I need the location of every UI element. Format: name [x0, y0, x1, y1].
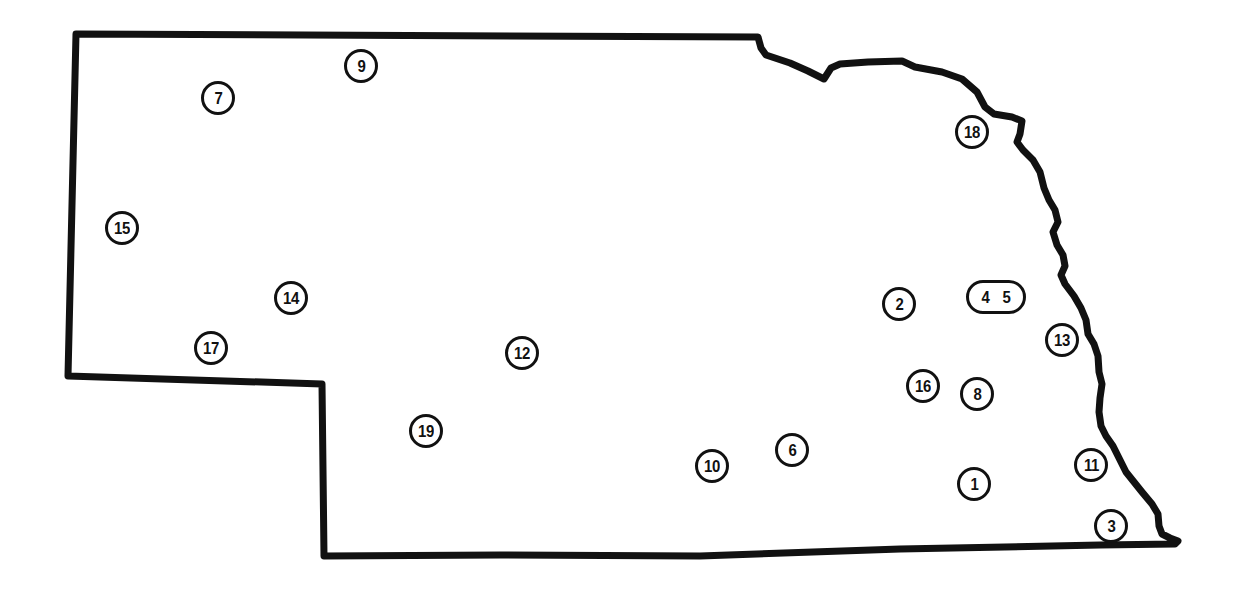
site-marker-label: 15 [114, 220, 130, 237]
site-marker-1[interactable]: 1 [957, 467, 991, 501]
site-marker-4-5[interactable]: 4 5 [966, 280, 1026, 314]
site-marker-label: 16 [915, 378, 931, 395]
site-marker-label: 11 [1084, 457, 1099, 474]
site-marker-14[interactable]: 14 [274, 281, 308, 315]
site-marker-19[interactable]: 19 [409, 414, 443, 448]
site-marker-7[interactable]: 7 [201, 81, 235, 115]
site-marker-10[interactable]: 10 [695, 449, 729, 483]
site-marker-label: 9 [357, 58, 365, 75]
site-marker-label: 6 [788, 442, 796, 459]
nebraska-map [0, 0, 1241, 595]
site-marker-16[interactable]: 16 [906, 369, 940, 403]
site-marker-label: 10 [704, 458, 720, 475]
site-marker-11[interactable]: 11 [1074, 448, 1108, 482]
site-marker-label: 19 [418, 423, 434, 440]
site-marker-6[interactable]: 6 [775, 433, 809, 467]
site-marker-label: 17 [203, 340, 219, 357]
site-marker-8[interactable]: 8 [960, 377, 994, 411]
site-marker-label: 18 [964, 124, 980, 141]
site-marker-13[interactable]: 13 [1045, 323, 1079, 357]
site-marker-18[interactable]: 18 [955, 115, 989, 149]
site-marker-label: 3 [1107, 518, 1115, 535]
site-marker-17[interactable]: 17 [194, 331, 228, 365]
site-marker-label: 14 [283, 290, 299, 307]
site-marker-label: 13 [1054, 332, 1070, 349]
site-marker-label: 8 [973, 386, 981, 403]
site-marker-9[interactable]: 9 [344, 49, 378, 83]
site-marker-2[interactable]: 2 [882, 287, 916, 321]
site-marker-12[interactable]: 12 [505, 336, 539, 370]
site-marker-label: 2 [895, 296, 903, 313]
site-marker-label-5[interactable]: 5 [1003, 289, 1011, 306]
site-marker-label: 1 [970, 476, 978, 493]
site-marker-label-4[interactable]: 4 [982, 289, 990, 306]
site-marker-3[interactable]: 3 [1094, 509, 1128, 543]
site-marker-15[interactable]: 15 [105, 211, 139, 245]
site-marker-label: 7 [214, 90, 222, 107]
site-marker-label: 12 [514, 345, 530, 362]
